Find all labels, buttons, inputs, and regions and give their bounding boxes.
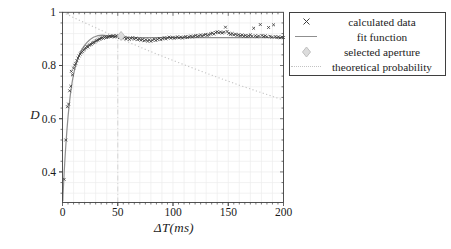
- svg-text:0.4: 0.4: [42, 166, 57, 178]
- legend-item-theoretical-probability: theoretical probability: [290, 59, 445, 74]
- y-axis-label: D: [26, 107, 44, 123]
- svg-text:0.8: 0.8: [42, 59, 57, 71]
- x-axis-label: ΔT(ms): [120, 220, 228, 236]
- dotted-line-icon: [290, 66, 322, 67]
- legend-label: calculated data: [322, 16, 445, 28]
- legend-label: theoretical probability: [322, 61, 445, 73]
- diamond-marker-icon: [290, 46, 322, 58]
- legend-item-fit-function: fit function: [290, 29, 445, 44]
- legend-item-calculated-data: calculated data: [290, 14, 445, 29]
- legend-label: fit function: [322, 31, 445, 43]
- svg-text:1: 1: [50, 6, 56, 18]
- legend-label: selected aperture: [322, 46, 445, 58]
- figure: 0501001502000.40.60.81 D ΔT(ms) calculat…: [0, 0, 451, 249]
- svg-text:50: 50: [112, 206, 124, 218]
- svg-text:0: 0: [60, 206, 66, 218]
- solid-line-icon: [290, 36, 322, 37]
- svg-text:200: 200: [275, 206, 293, 218]
- legend-item-selected-aperture: selected aperture: [290, 44, 445, 59]
- x-marker-icon: [290, 17, 322, 26]
- svg-text:150: 150: [220, 206, 238, 218]
- svg-text:100: 100: [164, 206, 182, 218]
- legend: calculated data fit function selected ap…: [289, 12, 446, 76]
